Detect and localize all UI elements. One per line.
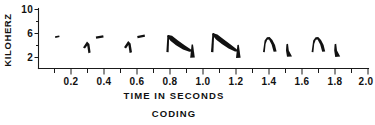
spectrogram-plot: KILOHERZ 10 6 2: [0, 0, 375, 125]
spectrogram-traces: [55, 33, 340, 58]
trace-chevron-2: [124, 41, 132, 53]
y-axis-label: KILOHERZ: [2, 13, 13, 66]
trace-long-downsweep-2: [212, 33, 238, 51]
x-tick-label-0-4: 0.4: [97, 76, 112, 87]
x-tick-label-0-2: 0.2: [64, 76, 79, 87]
y-axis-ticks: [35, 10, 39, 58]
x-tick-label-1-8: 1.8: [328, 76, 343, 87]
trace-dash-1: [96, 35, 104, 39]
trace-chevron-1: [83, 41, 91, 53]
trace-short-downsweep-2: [334, 44, 340, 57]
y-tick-label-10: 10: [21, 4, 33, 15]
trace-short-downsweep-1: [286, 44, 292, 57]
trace-arch-2: [312, 37, 326, 52]
trace-dash-2: [137, 35, 145, 39]
x-tick-label-1-4: 1.4: [262, 76, 277, 87]
x-axis-caption: TIME IN SECONDS: [124, 90, 225, 101]
x-tick-label-1-0: 1.0: [196, 76, 211, 87]
trace-intro-dot: [55, 35, 60, 38]
trace-long-downsweep-1: [167, 35, 192, 52]
y-axis-label-text: KILOHERZ: [2, 13, 13, 66]
x-tick-label-1-6: 1.6: [295, 76, 310, 87]
y-tick-label-2: 2: [27, 52, 33, 63]
trace-arch-1: [263, 37, 277, 52]
x-tick-label-0-8: 0.8: [163, 76, 178, 87]
x-axis-ticks: [55, 69, 369, 75]
y-axis-tick-labels: 10 6 2: [21, 4, 33, 63]
spectrogram-figure: KILOHERZ 10 6 2: [0, 0, 375, 125]
x-axis-tick-labels: 0.2 0.4 0.6 0.8 1.0 1.2 1.4 1.6 1.8 2.0: [64, 76, 374, 87]
x-tick-label-2-0: 2.0: [359, 76, 374, 87]
x-tick-label-0-6: 0.6: [130, 76, 145, 87]
x-tick-label-1-2: 1.2: [229, 76, 244, 87]
y-tick-label-6: 6: [27, 28, 33, 39]
figure-caption: CODING: [152, 108, 197, 119]
